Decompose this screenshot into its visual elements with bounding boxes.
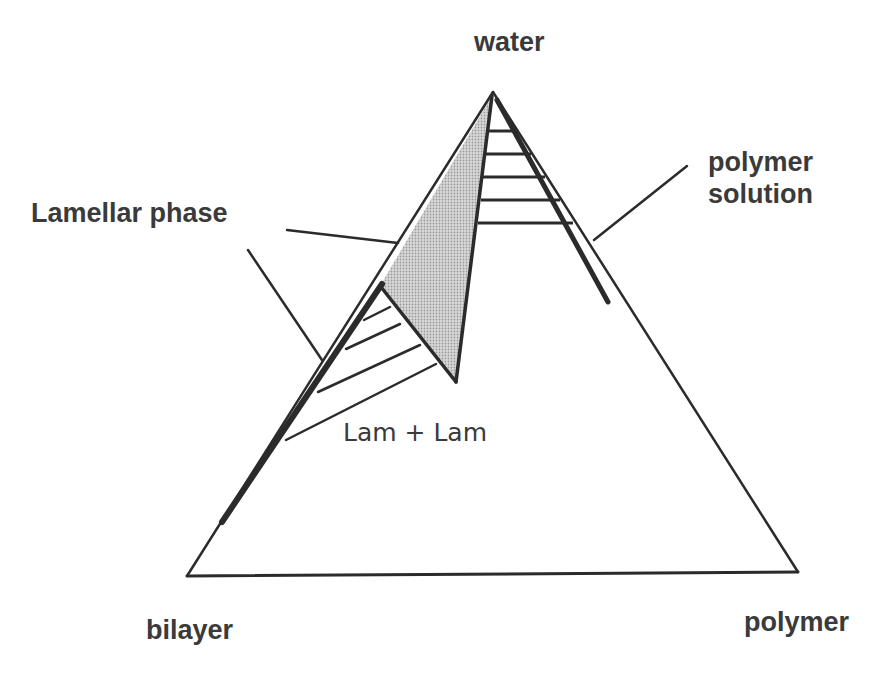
region-label-lam-lam: Lam + Lam [343,418,487,447]
vertex-label-water: water [474,28,545,58]
triangle-outline [187,92,798,576]
leader-lamellar-to-region [287,230,398,243]
vertex-label-polymer: polymer [744,608,849,638]
region-label-polymer-solution-line1: polymer [708,148,813,178]
lamellar-phase-region [380,94,493,382]
leader-lamellar-to-edge [248,250,322,360]
region-label-polymer-solution-line2: solution [708,180,813,210]
region-label-lamellar-phase: Lamellar phase [31,199,228,229]
vertex-label-bilayer: bilayer [146,616,233,646]
ternary-phase-diagram [0,0,889,680]
leader-polymer-solution [594,166,687,240]
